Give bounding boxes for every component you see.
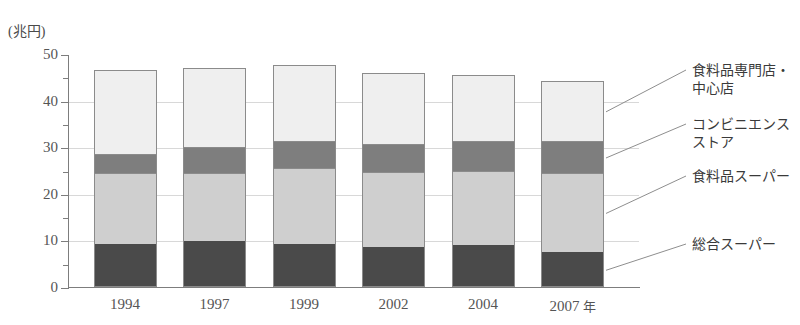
x-axis-label-2004: 2004: [438, 296, 528, 313]
bar-segment-1999-0: [273, 244, 336, 287]
legend-item-2: コンビニエンスストア: [692, 116, 790, 151]
y-tick-label-0: 0: [18, 280, 58, 295]
x-axis-label-1997: 1997: [170, 296, 260, 313]
bar-segment-1994-2: [94, 154, 157, 174]
x-axis-label-text: 2007: [550, 298, 580, 314]
bar-segment-1994-1: [94, 173, 157, 244]
y-tick-minor-25: [63, 172, 69, 173]
legend-label-line1: 総合スーパー: [692, 236, 776, 254]
y-tick-minor-15: [63, 218, 69, 219]
x-axis-line: [68, 287, 640, 288]
bar-segment-1997-0: [183, 241, 246, 287]
y-tick-label-10: 10: [18, 233, 58, 248]
stacked-bar-chart: (兆円) 01020304050 19941997199920022004200…: [0, 0, 800, 325]
bar-segment-2002-2: [362, 144, 425, 172]
bar-segment-2004-0: [452, 245, 515, 287]
legend-label-line2: ストア: [692, 134, 790, 152]
legend-label-line1: 食料品専門店・: [692, 62, 790, 80]
y-axis-unit-label: (兆円): [8, 20, 45, 40]
bar-1997: [183, 68, 246, 287]
legend-item-1: 食料品スーパー: [692, 168, 790, 186]
bar-segment-1997-3: [183, 68, 246, 147]
y-tick-label-40: 40: [18, 94, 58, 109]
y-tick-50: [61, 55, 69, 56]
legend-item-0: 総合スーパー: [692, 236, 776, 254]
bar-segment-1994-0: [94, 244, 157, 287]
y-tick-10: [61, 241, 69, 242]
bar-1999: [273, 65, 336, 287]
bar-segment-2007-2: [541, 141, 604, 174]
y-tick-minor-45: [63, 78, 69, 79]
bar-segment-2002-3: [362, 73, 425, 144]
bar-segment-2002-1: [362, 172, 425, 247]
y-tick-30: [61, 148, 69, 149]
y-tick-minor-35: [63, 125, 69, 126]
bar-segment-1999-1: [273, 168, 336, 243]
bar-segment-1999-2: [273, 141, 336, 168]
bar-segment-2002-0: [362, 247, 425, 287]
bar-segment-2004-3: [452, 75, 515, 141]
bar-2002: [362, 73, 425, 287]
bar-segment-1999-3: [273, 65, 336, 141]
bar-segment-2007-1: [541, 173, 604, 251]
x-axis-label-2002: 2002: [349, 296, 439, 313]
y-tick-20: [61, 195, 69, 196]
bar-segment-2007-3: [541, 81, 604, 141]
bar-2007: [541, 81, 604, 287]
y-axis-tick-labels: 01020304050: [10, 55, 58, 288]
bar-segment-1994-3: [94, 70, 157, 153]
y-tick-label-30: 30: [18, 140, 58, 155]
legend-item-3: 食料品専門店・中心店: [692, 62, 790, 97]
y-tick-label-20: 20: [18, 187, 58, 202]
bar-segment-2007-0: [541, 252, 604, 287]
x-axis-label-2007: 2007年: [528, 296, 618, 315]
y-tick-label-50: 50: [18, 47, 58, 62]
plot-area: [68, 55, 638, 288]
x-axis-label-1999: 1999: [259, 296, 349, 313]
y-tick-minor-5: [63, 265, 69, 266]
y-tick-40: [61, 102, 69, 103]
legend-label-line1: コンビニエンス: [692, 116, 790, 134]
bar-segment-2004-2: [452, 141, 515, 171]
bar-segment-1997-2: [183, 147, 246, 173]
bar-1994: [94, 70, 157, 287]
legend-label-line1: 食料品スーパー: [692, 168, 790, 186]
bar-segment-1997-1: [183, 173, 246, 242]
bar-segment-2004-1: [452, 171, 515, 246]
x-axis-label-1994: 1994: [80, 296, 170, 313]
y-tick-0: [61, 288, 69, 289]
bar-2004: [452, 75, 515, 287]
x-axis-unit: 年: [583, 299, 596, 314]
legend-label-line2: 中心店: [692, 80, 790, 98]
